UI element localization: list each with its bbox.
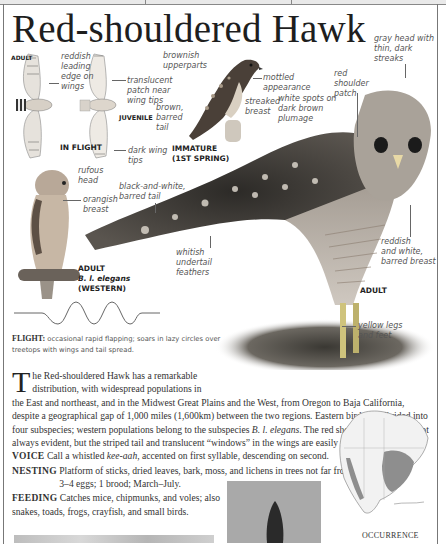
intro-line-1: he Red-shouldered Hawk has a remarkable	[12, 369, 432, 382]
range-map	[334, 408, 434, 523]
flight-pattern-wave-icon	[12, 300, 162, 328]
label-yellow-legs: yellow legs and feet	[358, 321, 402, 341]
leader-line	[63, 200, 81, 201]
similar-species-photo	[227, 481, 321, 543]
leader-line	[210, 236, 211, 248]
label-white-spots: white spots on dark brown plumage	[278, 94, 336, 124]
western-adult-hawk-illustration	[14, 165, 84, 300]
habitat-photo	[14, 535, 214, 543]
label-red-shoulder-patch: red shoulder patch	[334, 69, 369, 99]
leader-line	[49, 83, 59, 84]
voice-heading: VOICE	[12, 451, 44, 461]
flight-description: FLIGHT: occasional rapid flapping; soars…	[12, 333, 232, 356]
label-reddish-barred-breast: reddish and white, barred breast	[381, 237, 436, 267]
voice-text-pre: Call a whistled	[47, 450, 107, 461]
label-black-white-tail: black-and-white, barred tail	[119, 182, 186, 202]
subspecies-text: B. l. elegans	[252, 424, 299, 435]
leader-line	[112, 80, 126, 81]
leader-line	[155, 203, 156, 213]
adult-flight-tag: ADULT	[11, 53, 32, 63]
label-brownish-upperparts: brownish upperparts	[163, 51, 207, 71]
drop-cap: T	[12, 370, 30, 394]
feeding-heading: FEEDING	[12, 493, 57, 503]
bird-silhouette	[263, 499, 287, 543]
leader-line	[410, 205, 411, 237]
adult-caption: ADULT	[360, 286, 387, 296]
voice-call: kee-aah	[107, 450, 137, 461]
adult-in-flight-illustration	[12, 52, 56, 160]
intro-line-2: distribution, with widespread population…	[12, 382, 432, 395]
leader-line	[342, 326, 356, 327]
label-whitish-undertail: whitish undertail feathers	[176, 248, 212, 278]
leader-line	[357, 93, 358, 137]
feeding-text-1: Catches mice, chipmunks, and voles; also	[60, 492, 220, 503]
flight-heading: FLIGHT:	[12, 334, 45, 343]
leader-line	[405, 64, 406, 78]
leader-line	[253, 78, 262, 79]
label-gray-head: gray head with thin, dark streaks	[374, 34, 434, 64]
nesting-heading: NESTING	[12, 466, 57, 476]
feeding-text-2: snakes, toads, frogs, crayfish, and smal…	[12, 506, 189, 517]
voice-text-post: , accented on first syllable, descending…	[137, 450, 329, 461]
occurrence-heading: OCCURRENCE	[362, 531, 419, 540]
page-title: Red-shouldered Hawk	[12, 6, 366, 51]
